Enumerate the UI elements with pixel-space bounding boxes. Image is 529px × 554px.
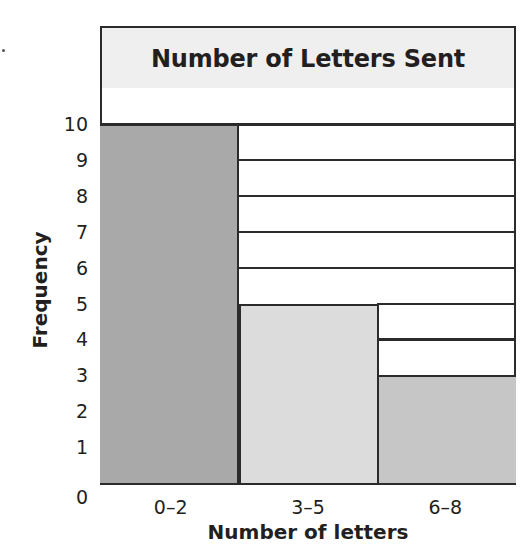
x-tick-label: 3–5 bbox=[268, 497, 348, 517]
gridline bbox=[377, 338, 514, 341]
gridline bbox=[239, 267, 514, 270]
gridline bbox=[102, 123, 514, 126]
y-tick-label: 0 bbox=[48, 487, 88, 507]
y-axis-label: Frequency bbox=[28, 231, 52, 348]
y-tick-label: 9 bbox=[48, 150, 88, 170]
y-tick-label: 8 bbox=[48, 186, 88, 206]
x-tick-label: 0–2 bbox=[131, 497, 211, 517]
y-tick-label: 1 bbox=[48, 437, 88, 457]
y-tick-label: 10 bbox=[48, 114, 88, 134]
histogram-bar bbox=[377, 375, 517, 483]
plot-area bbox=[100, 88, 516, 485]
gridline bbox=[239, 231, 514, 234]
chart-title: Number of Letters Sent bbox=[151, 45, 465, 73]
y-tick-label: 3 bbox=[48, 365, 88, 385]
x-axis-label: Number of letters bbox=[100, 520, 516, 544]
x-tick-label: 6–8 bbox=[405, 497, 485, 517]
y-tick-label: 7 bbox=[48, 222, 88, 242]
gridline bbox=[239, 195, 514, 198]
y-tick-label: 4 bbox=[48, 329, 88, 349]
gridline bbox=[239, 159, 514, 162]
y-tick-label: 5 bbox=[48, 294, 88, 314]
stray-mark bbox=[2, 49, 5, 52]
chart-title-box: Number of Letters Sent bbox=[100, 26, 516, 92]
gridline bbox=[377, 303, 514, 306]
histogram-bar bbox=[239, 304, 379, 484]
y-tick-label: 2 bbox=[48, 401, 88, 421]
y-tick-label: 6 bbox=[48, 258, 88, 278]
histogram-bar bbox=[100, 124, 240, 483]
